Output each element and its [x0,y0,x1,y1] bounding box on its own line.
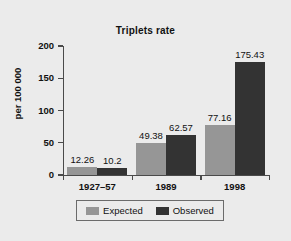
legend-entry-expected[interactable]: Expected [86,205,143,216]
bar-value-label: 175.43 [230,49,270,60]
bar-expected-0 [67,167,97,175]
chart-legend: ExpectedObserved [76,200,224,221]
bar-observed-2 [235,62,265,175]
y-tick-mark [58,110,63,111]
x-axis-line [63,175,269,176]
x-group-tick [269,175,270,180]
bar-expected-2 [205,125,235,175]
bar-observed-0 [97,168,127,175]
bar-expected-1 [136,143,166,175]
y-tick-label: 200 [14,40,54,51]
y-axis-title: per 100 000 [12,49,23,139]
x-tick-label-2: 1998 [200,181,270,192]
legend-swatch-icon [86,207,99,215]
x-group-tick [200,175,201,180]
y-tick-mark [58,45,63,46]
y-tick-mark [58,78,63,79]
y-tick-label: 150 [14,72,54,83]
y-tick-mark [58,142,63,143]
x-group-tick [132,175,133,180]
y-tick-label: 0 [14,169,54,180]
x-group-tick [63,175,64,180]
legend-entry-observed[interactable]: Observed [156,205,214,216]
y-tick-label: 50 [14,137,54,148]
x-tick-label-1: 1989 [131,181,201,192]
legend-label: Expected [103,205,143,216]
chart-canvas: Triplets rate per 100 000 050100150200 1… [0,0,291,241]
bar-value-label: 10.2 [92,155,132,166]
bar-value-label: 62.57 [161,122,201,133]
bar-value-label: 77.16 [200,112,240,123]
bar-observed-1 [166,135,196,175]
chart-title: Triplets rate [0,25,291,36]
x-tick-label-0: 1927–57 [62,181,132,192]
y-tick-label: 100 [14,105,54,116]
legend-swatch-icon [156,207,169,215]
legend-label: Observed [173,205,214,216]
